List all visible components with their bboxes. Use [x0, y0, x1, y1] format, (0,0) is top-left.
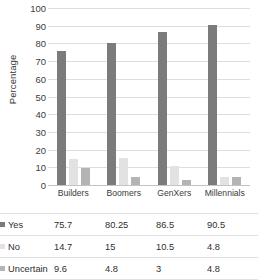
- bar-uncertain: [131, 177, 140, 185]
- y-axis-tick-label: 60: [35, 73, 46, 84]
- y-axis-tick-label: 100: [30, 3, 46, 14]
- legend-swatch-icon: [0, 222, 5, 227]
- table-cell: 4.8: [207, 258, 258, 280]
- y-axis-tick-label: 40: [35, 109, 46, 120]
- y-axis-tick-label: 20: [35, 144, 46, 155]
- table-cell: 75.7: [54, 214, 105, 236]
- legend-label: Yes: [8, 220, 23, 230]
- x-axis-tick-label: Millennials: [200, 188, 251, 198]
- legend-swatch-icon: [0, 266, 5, 271]
- y-axis-tick-label: 90: [35, 20, 46, 31]
- y-axis-tick-label: 0: [41, 180, 46, 191]
- table-row: No14.71510.54.8: [0, 236, 258, 258]
- table-cell: 90.5: [207, 214, 258, 236]
- x-axis-tick-label: Builders: [48, 188, 99, 198]
- table-cell: 80.25: [105, 214, 156, 236]
- table-row: Yes75.780.2586.590.5: [0, 214, 258, 236]
- bar-no: [170, 166, 179, 185]
- x-axis-tick-label: GenXers: [149, 188, 200, 198]
- bar-group: [149, 8, 200, 185]
- bar-yes: [158, 32, 167, 185]
- plot-area: [48, 8, 250, 185]
- bar-yes: [107, 43, 116, 185]
- y-axis-tick-label: 70: [35, 56, 46, 67]
- table-cell: 10.5: [156, 236, 207, 258]
- x-axis-baseline: [48, 185, 250, 186]
- bar-yes: [57, 51, 66, 185]
- bar-group: [200, 8, 251, 185]
- legend-swatch-icon: [0, 244, 5, 249]
- legend-label: No: [8, 242, 20, 252]
- bar-uncertain: [182, 180, 191, 185]
- bar-no: [220, 177, 229, 185]
- y-axis-tick-labels: 1009080706050403020100: [22, 8, 46, 185]
- table-row: Uncertain9.64.834.8: [0, 258, 258, 280]
- bar-groups: [48, 8, 250, 185]
- y-axis-title: Percentage: [7, 20, 18, 140]
- bar-yes: [208, 25, 217, 185]
- table-cell: 15: [105, 236, 156, 258]
- chart-data-table: Yes75.780.2586.590.5No14.71510.54.8Uncer…: [0, 213, 258, 280]
- table-cell: 14.7: [54, 236, 105, 258]
- table-cell: 4.8: [207, 236, 258, 258]
- table-cell: 4.8: [105, 258, 156, 280]
- plot-region: Percentage 1009080706050403020100 Builde…: [0, 0, 258, 212]
- table-cell: 86.5: [156, 214, 207, 236]
- table-cell: 9.6: [54, 258, 105, 280]
- y-axis-tick-label: 50: [35, 91, 46, 102]
- bar-no: [69, 159, 78, 185]
- y-axis-tick-label: 80: [35, 38, 46, 49]
- x-axis-tick-labels: BuildersBoomersGenXersMillennials: [48, 188, 250, 198]
- bar-group: [48, 8, 99, 185]
- x-axis-tick-label: Boomers: [99, 188, 150, 198]
- legend-entry: Uncertain: [0, 258, 54, 280]
- table-cell: 3: [156, 258, 207, 280]
- y-axis-tick-label: 30: [35, 126, 46, 137]
- legend-entry: Yes: [0, 214, 54, 236]
- bar-no: [119, 158, 128, 185]
- bar-uncertain: [81, 168, 90, 185]
- y-axis-tick-label: 10: [35, 162, 46, 173]
- data-table-body: Yes75.780.2586.590.5No14.71510.54.8Uncer…: [0, 214, 258, 280]
- legend-label: Uncertain: [8, 264, 48, 274]
- bar-group: [99, 8, 150, 185]
- bar-uncertain: [232, 177, 241, 185]
- legend-entry: No: [0, 236, 54, 258]
